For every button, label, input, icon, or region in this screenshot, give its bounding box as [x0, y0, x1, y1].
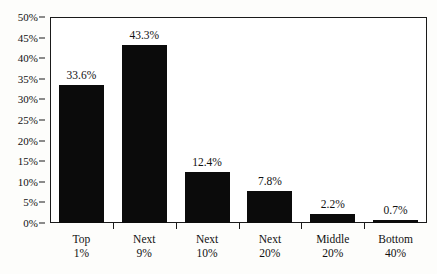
x-tick-mark — [176, 223, 177, 229]
y-tick-mark — [39, 17, 45, 18]
x-tick-mark — [301, 223, 302, 229]
y-axis: 0%5%10%15%20%25%30%35%40%45%50% — [0, 0, 50, 274]
y-tick-mark — [39, 181, 45, 182]
category-label: Middle 20% — [316, 232, 349, 260]
y-tick-mark — [39, 120, 45, 121]
y-tick-mark — [39, 202, 45, 203]
bar-value-label: 12.4% — [192, 156, 222, 168]
bar — [122, 45, 167, 223]
y-tick-label: 40% — [18, 52, 38, 64]
bar — [310, 214, 355, 223]
category-label: Top 1% — [73, 232, 91, 260]
category-label: Next 10% — [196, 232, 218, 260]
y-tick-label: 20% — [18, 135, 38, 147]
y-tick-label: 10% — [18, 176, 38, 188]
y-tick-mark — [39, 58, 45, 59]
bar-value-label: 0.7% — [384, 204, 408, 216]
bar — [185, 172, 230, 223]
y-tick-label: 5% — [23, 196, 38, 208]
y-tick-mark — [39, 140, 45, 141]
bar-value-label: 2.2% — [321, 198, 345, 210]
y-tick-mark — [39, 223, 45, 224]
y-tick-label: 25% — [18, 114, 38, 126]
category-label: Bottom 40% — [378, 232, 413, 260]
bar — [373, 220, 418, 223]
y-tick-label: 15% — [18, 155, 38, 167]
chart-page: 0%5%10%15%20%25%30%35%40%45%50% 33.6%Top… — [0, 0, 437, 274]
bar-value-label: 43.3% — [129, 29, 159, 41]
y-tick-label: 30% — [18, 93, 38, 105]
y-tick-mark — [39, 161, 45, 162]
y-tick-label: 35% — [18, 73, 38, 85]
plot-area — [50, 17, 427, 223]
y-tick-mark — [39, 78, 45, 79]
y-tick-label: 0% — [23, 217, 38, 229]
y-tick-label: 50% — [18, 11, 38, 23]
y-tick-mark — [39, 37, 45, 38]
x-tick-mark — [113, 223, 114, 229]
y-tick-label: 45% — [18, 32, 38, 44]
x-tick-mark — [239, 223, 240, 229]
category-label: Next 20% — [259, 232, 281, 260]
category-label: Next 9% — [133, 232, 155, 260]
bar — [247, 191, 292, 223]
bar-value-label: 33.6% — [67, 69, 97, 81]
bar — [59, 85, 104, 223]
y-tick-mark — [39, 99, 45, 100]
bar-value-label: 7.8% — [258, 175, 282, 187]
x-tick-mark — [364, 223, 365, 229]
